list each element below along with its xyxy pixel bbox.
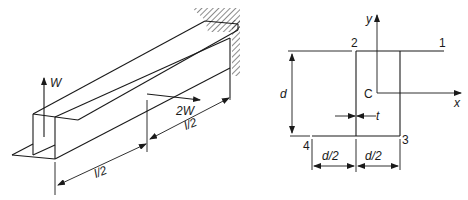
beam-isometric-view: W 2W l/2 l/2 (12, 8, 240, 195)
diagram-canvas: W 2W l/2 l/2 y (0, 0, 468, 200)
z-section-outline (312, 51, 444, 136)
point-1-label: 1 (439, 36, 446, 50)
x-axis-label: x (453, 96, 461, 110)
load-w-label: W (50, 76, 63, 90)
centroid-label: C (364, 87, 373, 101)
beam-top-flange (33, 21, 238, 120)
y-axis-label: y (365, 12, 373, 26)
point-3-label: 3 (402, 133, 409, 147)
dim-half-span-left: l/2 (92, 163, 109, 181)
dim-thickness-label: t (376, 109, 380, 123)
dimension-thickness: t (335, 109, 380, 123)
dim-half-width-left: d/2 (322, 149, 339, 163)
dimension-widths: d/2 d/2 (312, 139, 400, 172)
dim-half-width-right: d/2 (365, 149, 382, 163)
point-2-label: 2 (351, 36, 358, 50)
section-axes: y x C (364, 12, 461, 110)
point-4-label: 4 (303, 139, 310, 153)
dim-depth-label: d (280, 87, 287, 101)
dimension-depth: d (280, 51, 352, 136)
cross-section-view: y x C 1 2 3 4 d t (280, 12, 461, 172)
dimension-span: l/2 l/2 (55, 98, 230, 195)
